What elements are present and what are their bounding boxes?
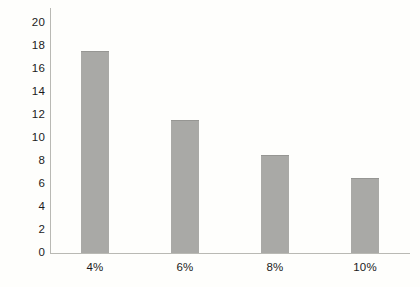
x-axis-tick-label: 6% bbox=[155, 262, 215, 274]
bar bbox=[81, 51, 109, 253]
y-axis-tick-label: 16 bbox=[0, 63, 45, 75]
plot-area bbox=[50, 8, 410, 253]
y-axis-tick-label: 8 bbox=[0, 155, 45, 167]
x-axis-line bbox=[50, 253, 410, 254]
x-axis-tick-label: 8% bbox=[245, 262, 305, 274]
x-axis-tick-label: 4% bbox=[65, 262, 125, 274]
y-axis-tick-label: 12 bbox=[0, 109, 45, 121]
bar-chart: 02468101214161820 4%6%8%10% bbox=[0, 0, 420, 287]
y-axis-tick-label: 4 bbox=[0, 201, 45, 213]
y-axis-tick-label: 14 bbox=[0, 86, 45, 98]
bar bbox=[351, 178, 379, 253]
x-axis-tick-label: 10% bbox=[335, 262, 395, 274]
y-axis-tick-label: 18 bbox=[0, 40, 45, 52]
y-axis-tick-label: 6 bbox=[0, 178, 45, 190]
y-axis-tick-label: 2 bbox=[0, 224, 45, 236]
bar bbox=[261, 155, 289, 253]
bar bbox=[171, 120, 199, 253]
y-axis-tick-label: 20 bbox=[0, 17, 45, 29]
y-axis-tick-label: 0 bbox=[0, 247, 45, 259]
y-axis-tick-label: 10 bbox=[0, 132, 45, 144]
y-axis-tick-labels: 02468101214161820 bbox=[0, 0, 45, 287]
